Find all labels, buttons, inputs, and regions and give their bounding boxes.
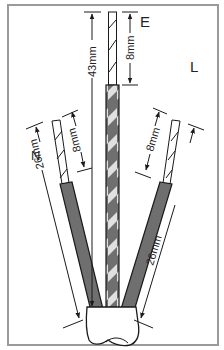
label-earth: E [140, 13, 150, 30]
dim-earth-strip-text: 8mm [124, 36, 136, 60]
dim-neutral-total-text: 26mm [27, 138, 46, 171]
dim-earth-total-text: 43mm [86, 46, 98, 77]
label-live: L [190, 58, 198, 75]
dim-live-strip-text: 8mm [143, 126, 162, 153]
cable-sheath [86, 307, 138, 346]
earth-wire [106, 12, 119, 310]
wiring-diagram: E L N 43mm 8mm 26mm 8mm 26mm 8mm [0, 0, 224, 350]
dim-neutral-strip-text: 8mm [65, 127, 83, 154]
